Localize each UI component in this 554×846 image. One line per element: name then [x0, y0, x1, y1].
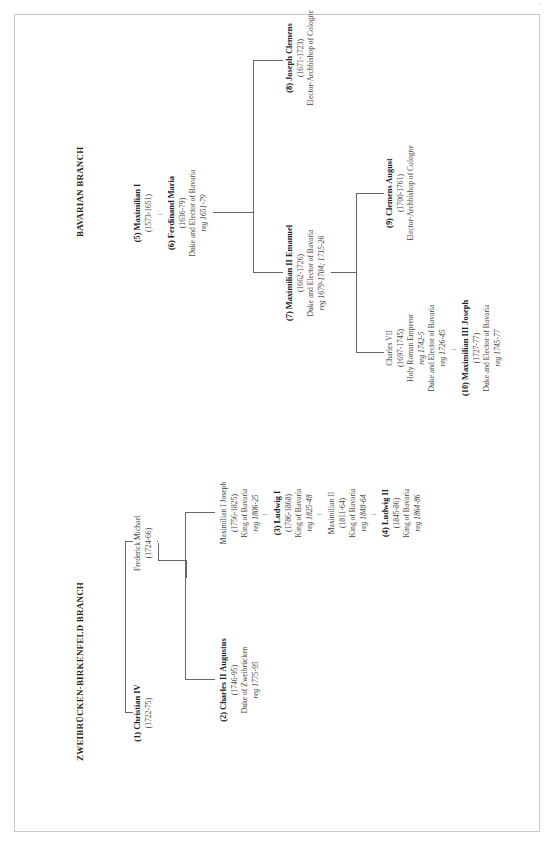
connector-line [253, 272, 283, 273]
connector-line [125, 541, 133, 542]
page-frame: ZWEIBRÜCKEN-BIRKENFELD BRANCH (1) Christ… [14, 14, 540, 832]
descent-tick: | [315, 514, 323, 515]
bavarian-branch-title: BAVARIAN BRANCH [75, 147, 85, 237]
connector-line [185, 679, 215, 680]
connector-line [356, 352, 384, 353]
family-tree-diagram: ZWEIBRÜCKEN-BIRKENFELD BRANCH (1) Christ… [15, 15, 541, 833]
person-charles-vii: Charles VII (1697-1745) Holy Roman Emper… [385, 283, 448, 413]
children-bracket-line [185, 512, 186, 680]
person-maximilian-i-joseph: Maximilian I Joseph (1756-1825) King of … [219, 453, 261, 573]
connector-line [185, 512, 215, 513]
person-ludwig-i: (3) Ludwig I (1786-1868) King of Bavaria… [273, 453, 315, 573]
person-maximilian-i: (5) Maximilian I (1573-1651) [133, 148, 154, 278]
person-ferdinand-maria: (6) Ferdinand Maria (1636-79) Duke and E… [167, 148, 209, 278]
descent-tick: | [369, 514, 377, 515]
children-bracket-line [356, 193, 357, 353]
connector-line [186, 560, 187, 578]
connector-line [125, 712, 133, 713]
person-frederick-michael: Frederick Michael (1724-66) [133, 483, 154, 603]
person-ludwig-ii: (4) Ludwig II (1845-86) King of Bavaria … [381, 453, 423, 573]
person-charles-ii-augustus: (2) Charles II Augustus (1746-95) Duke o… [219, 615, 261, 745]
descent-tick: | [261, 514, 269, 515]
connector-line [157, 541, 158, 542]
connector-line [158, 560, 186, 561]
zweibrucken-branch-title: ZWEIBRÜCKEN-BIRKENFELD BRANCH [75, 582, 85, 761]
person-christian-iv: (1) Christian IV (1722-75) [133, 653, 154, 773]
person-maximilian-ii: Maximilian II (1811-64) King of Bavaria … [327, 453, 369, 573]
connector-line [331, 272, 356, 273]
descent-tick: | [156, 214, 164, 215]
connector-line [125, 541, 126, 713]
person-maximilian-iii-joseph: (10) Maximilian III Joseph (1727-77) Duk… [461, 273, 503, 423]
connector-line [356, 193, 384, 194]
person-clemens-august: (9) Clemens August (1700-1761) Elector-A… [385, 123, 417, 263]
page-corner-mark: ' [540, 2, 541, 10]
connector-line [158, 543, 159, 561]
person-maximilian-ii-emanuel: (7) Maximilian II Emanuel (1662-1726) Du… [285, 203, 327, 343]
person-joseph-clemens: (8) Joseph Clemens (1671-1723) Elector-A… [285, 0, 317, 133]
descent-tick: | [449, 349, 457, 350]
children-bracket-line [253, 60, 254, 273]
connector-line [253, 60, 283, 61]
connector-line [213, 212, 253, 213]
